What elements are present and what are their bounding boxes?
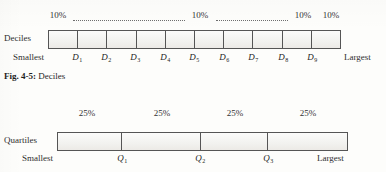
decile-cell xyxy=(166,31,195,48)
decile-marker-d7: D7 xyxy=(248,52,258,64)
quartile-cell xyxy=(268,133,347,150)
quartile-marker-q1: Q1 xyxy=(117,153,127,165)
decile-cell xyxy=(137,31,166,48)
deciles-smallest-label: Smallest xyxy=(13,52,44,63)
decile-marker-d4: D4 xyxy=(160,52,170,64)
quartiles-percent-label-3: 25% xyxy=(227,108,244,119)
quartiles-smallest-label: Smallest xyxy=(22,153,53,164)
quartiles-row-label: Quartiles xyxy=(4,135,37,146)
decile-cell xyxy=(312,31,340,48)
deciles-largest-label: Largest xyxy=(344,52,371,63)
deciles-row-label: Deciles xyxy=(4,33,31,44)
decile-cell xyxy=(224,31,253,48)
decile-marker-d5: D5 xyxy=(189,52,199,64)
decile-cell xyxy=(49,31,78,48)
deciles-leader-line-1 xyxy=(73,19,185,21)
caption-title: Deciles xyxy=(38,71,65,81)
decile-cell xyxy=(107,31,136,48)
caption-number: 4-5: xyxy=(21,71,36,81)
quartile-cell xyxy=(201,133,268,150)
decile-cell xyxy=(78,31,107,48)
deciles-percent-label-4: 10% xyxy=(323,10,340,21)
quartiles-largest-label: Largest xyxy=(317,153,344,164)
quartiles-percent-label-4: 25% xyxy=(300,108,317,119)
deciles-percent-label-1: 10% xyxy=(50,10,67,21)
quartile-cell xyxy=(58,133,122,150)
deciles-percent-label-3: 10% xyxy=(295,10,312,21)
deciles-leader-line-2 xyxy=(216,19,288,21)
decile-marker-d2: D2 xyxy=(101,52,111,64)
decile-marker-d8: D8 xyxy=(278,52,288,64)
decile-marker-d1: D1 xyxy=(72,52,82,64)
decile-cell xyxy=(283,31,312,48)
quartile-marker-q2: Q2 xyxy=(195,153,205,165)
quartiles-bar xyxy=(57,132,348,151)
deciles-percent-label-2: 10% xyxy=(192,10,209,21)
figure-caption: Fig. 4-5: Deciles xyxy=(4,71,65,82)
deciles-bar xyxy=(48,30,341,49)
decile-marker-d6: D6 xyxy=(219,52,229,64)
caption-prefix: Fig. xyxy=(4,71,19,81)
decile-cell xyxy=(253,31,282,48)
quartile-marker-q3: Q3 xyxy=(263,153,273,165)
quartiles-percent-label-1: 25% xyxy=(79,108,96,119)
decile-marker-d3: D3 xyxy=(130,52,140,64)
figure-page: 10% 10% 10% 10% Deciles Smallest D1 D2 D… xyxy=(0,0,386,172)
decile-marker-d9: D9 xyxy=(307,52,317,64)
quartiles-percent-label-2: 25% xyxy=(154,108,171,119)
quartile-cell xyxy=(122,133,201,150)
decile-cell xyxy=(195,31,224,48)
